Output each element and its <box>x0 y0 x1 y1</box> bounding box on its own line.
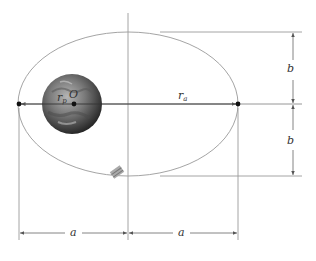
b-bottom-label: b <box>287 134 294 147</box>
apogee-radius-label: ra <box>178 89 187 103</box>
perigee-point <box>17 102 22 107</box>
orbit-diagram: rp O ra b b a a <box>0 0 316 261</box>
b-top-label: b <box>287 62 294 75</box>
a-left-label: a <box>70 226 77 239</box>
focus-point <box>72 102 77 107</box>
apogee-point <box>236 102 241 107</box>
a-right-label: a <box>178 226 185 239</box>
satellite-icon <box>110 165 124 178</box>
focus-label: O <box>69 88 78 101</box>
